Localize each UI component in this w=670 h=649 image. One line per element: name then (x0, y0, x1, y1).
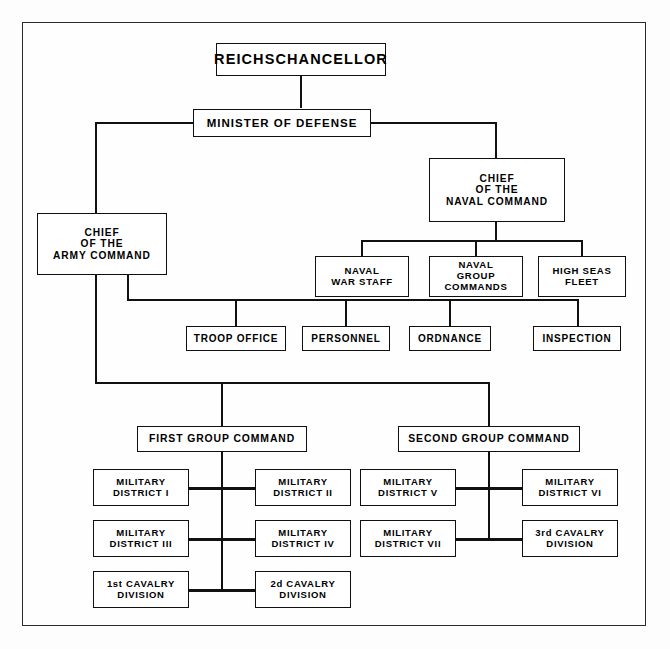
node-personnel[interactable]: PERSONNEL (302, 326, 390, 351)
connector-departments-bus-horizontal (127, 299, 579, 301)
connector-naval-chief-down-stub (495, 222, 497, 242)
connector-reichschancellor-to-minister (300, 76, 302, 108)
node-chief-of-naval-command[interactable]: CHIEF OF THE NAVAL COMMAND (429, 158, 565, 222)
node-high-seas-fleet[interactable]: HIGH SEAS FLEET (538, 256, 626, 297)
node-first-group-command[interactable]: FIRST GROUP COMMAND (137, 426, 307, 452)
node-ordnance[interactable]: ORDNANCE (409, 326, 491, 351)
node-military-district-3[interactable]: MILITARY DISTRICT III (93, 520, 189, 557)
org-chart-diagram: REICHSCHANCELLOR MINISTER OF DEFENSE CHI… (0, 0, 670, 649)
connector-group-bus-horizontal (95, 382, 490, 384)
connector-second-group-command-drop (488, 382, 490, 427)
node-military-district-6[interactable]: MILITARY DISTRICT VI (522, 469, 618, 506)
connector-naval-war-staff-drop (361, 240, 363, 257)
node-reichschancellor[interactable]: REICHSCHANCELLOR (216, 43, 386, 76)
node-3rd-cavalry-division[interactable]: 3rd CAVALRY DIVISION (522, 520, 618, 557)
node-chief-of-army-command[interactable]: CHIEF OF THE ARMY COMMAND (37, 213, 167, 275)
connector-personnel-drop (345, 299, 347, 327)
connector-first-group-command-drop (221, 382, 223, 427)
chart-frame-border: REICHSCHANCELLOR MINISTER OF DEFENSE CHI… (22, 22, 646, 626)
node-military-district-7[interactable]: MILITARY DISTRICT VII (360, 520, 456, 557)
connector-inspection-drop (577, 299, 579, 327)
node-military-district-1[interactable]: MILITARY DISTRICT I (93, 469, 189, 506)
node-naval-war-staff[interactable]: NAVAL WAR STAFF (315, 256, 409, 297)
connector-troop-office-drop (235, 299, 237, 327)
node-2d-cavalry-division[interactable]: 2d CAVALRY DIVISION (255, 571, 351, 608)
node-minister-of-defense[interactable]: MINISTER OF DEFENSE (193, 109, 371, 137)
connector-minister-left-horizontal (95, 122, 193, 124)
connector-naval-group-commands-drop (475, 240, 477, 257)
node-military-district-5[interactable]: MILITARY DISTRICT V (360, 469, 456, 506)
node-military-district-2[interactable]: MILITARY DISTRICT II (255, 469, 351, 506)
node-inspection[interactable]: INSPECTION (533, 326, 621, 351)
node-1st-cavalry-division[interactable]: 1st CAVALRY DIVISION (93, 571, 189, 608)
connector-high-seas-fleet-drop (581, 240, 583, 257)
node-military-district-4[interactable]: MILITARY DISTRICT IV (255, 520, 351, 557)
connector-minister-right-horizontal (371, 122, 497, 124)
connector-naval-bus-horizontal (361, 240, 583, 242)
node-naval-group-commands[interactable]: NAVAL GROUP COMMANDS (429, 256, 523, 297)
connector-ordnance-drop (449, 299, 451, 327)
node-troop-office[interactable]: TROOP OFFICE (186, 326, 286, 351)
node-second-group-command[interactable]: SECOND GROUP COMMAND (398, 426, 580, 452)
